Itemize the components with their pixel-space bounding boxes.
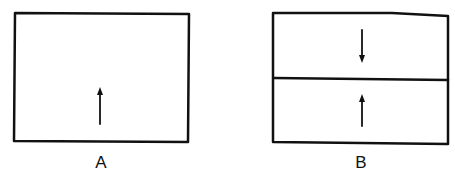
arrow-down-icon [359,55,365,63]
diagram-canvas: A B [0,0,455,176]
panel-b-arrow-up [359,94,365,126]
panel-a-arrow-up [97,87,103,124]
panel-a: A [14,13,189,172]
arrow-up-icon [97,87,103,95]
panel-a-box [14,13,189,142]
panel-b-divider [274,78,448,80]
panel-b-label: B [355,153,366,172]
panel-b: B [273,13,448,172]
panel-b-arrow-down [359,30,365,63]
panel-a-label: A [95,153,107,172]
arrow-up-icon [359,94,365,102]
